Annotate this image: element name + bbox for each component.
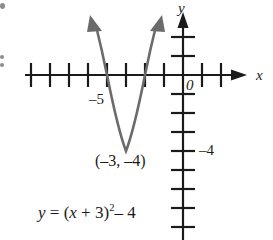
parabola-left-arrowhead bbox=[87, 15, 102, 32]
parabola-curve bbox=[96, 26, 156, 151]
y-tick-label-neg4: –4 bbox=[199, 143, 214, 158]
origin-label: 0 bbox=[186, 78, 194, 93]
graph-figure: x y 0 –5 –4 (–3, –4) y = (x + 3)2– 4 bbox=[0, 0, 273, 240]
y-axis-group bbox=[171, 12, 195, 240]
y-axis-label: y bbox=[178, 1, 185, 16]
x-tick-label-neg5: –5 bbox=[89, 92, 104, 107]
x-axis-arrowhead bbox=[231, 70, 247, 81]
parabola-right-arrowhead bbox=[150, 15, 165, 32]
equation-minus: – bbox=[114, 203, 123, 222]
x-axis-group bbox=[25, 63, 247, 87]
equation-plus: + bbox=[81, 203, 91, 222]
equation-lhs: y bbox=[38, 203, 46, 222]
equation-variable: x bbox=[69, 203, 77, 222]
equation-label: y = (x + 3)2– 4 bbox=[38, 204, 136, 221]
equation-equals: = bbox=[50, 203, 60, 222]
equation-outer-constant: 4 bbox=[127, 203, 136, 222]
vertex-point-label: (–3, –4) bbox=[95, 153, 146, 169]
x-axis-label: x bbox=[256, 68, 263, 83]
